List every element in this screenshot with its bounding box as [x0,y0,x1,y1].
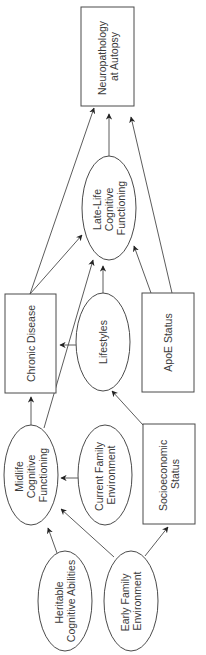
node-label-line: Environment [105,445,117,504]
node-label-line: Cognitive [25,454,37,498]
node-late-life-cognitive-functioning: Late-Life Cognitive Functioning [82,156,136,260]
svg-text:Current Family Environme: Current Family Environment [93,439,117,511]
node-label-line: at Autopsy [108,31,120,81]
node-label-line: Socioeconomic [157,440,169,511]
node-label-line: Environment [131,571,143,630]
node-label-line: Neuropathology [96,20,108,95]
node-label-line: Chronic Disease [25,305,37,382]
edge-heritable-to-midlife [48,528,57,553]
node-label-line: Status [169,459,181,489]
node-early-family-environment: Early Family Environment [104,551,158,651]
node-label-line: Current Family [93,441,105,511]
svg-text:Late-Life Cognitive: Late-Life Cognitive Functioning [91,181,127,235]
edge-apoe-to-neuropathology [131,117,172,293]
node-apoe-status: ApoE Status [142,293,194,392]
node-chronic-disease: Chronic Disease [5,294,56,393]
node-label-line: Early Family [119,573,131,632]
node-label-line: Functioning [115,181,127,235]
node-neuropathology: Neuropathology at Autopsy [81,7,134,106]
node-midlife-cognitive-functioning: Midlife Cognitive Functioning [4,425,58,525]
edge-chronic-to-latelife [30,235,82,294]
node-heritable-cognitive-abilities: Heritable Cognitive Abilities [38,551,92,651]
node-lifestyles: Lifestyles [76,293,130,391]
edge-apoe-to-latelife [134,246,151,293]
node-socioeconomic-status: Socioeconomic Status [143,424,195,524]
svg-text:Chronic Disease: Chronic Disease [25,305,37,382]
svg-text:ApoE Status: ApoE Status [162,313,174,371]
node-label-line: Cognitive Abilities [65,560,77,642]
causal-diagram: Neuropathology at Autopsy Late-Life Cogn… [0,0,206,655]
svg-text:Lifestyles: Lifestyles [97,320,109,364]
svg-text:Early Family Environment: Early Family Environment [119,571,143,632]
node-label-line: Late-Life [91,189,103,230]
node-current-family-environment: Current Family Environment [78,425,132,525]
node-label-line: Lifestyles [97,320,109,364]
node-label-line: Functioning [37,448,49,502]
node-label-line: ApoE Status [162,313,174,371]
node-label-line: Midlife [13,461,25,492]
node-label-line: Heritable [53,581,65,623]
edge-socioeconomic-to-lifestyles [112,391,143,425]
edge-earlyfamily-to-socioeconomic [145,527,168,556]
node-label-line: Cognitive [103,187,115,231]
